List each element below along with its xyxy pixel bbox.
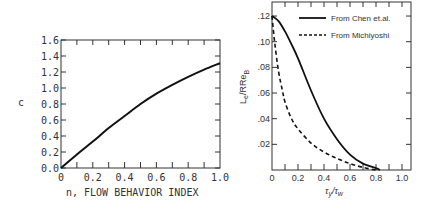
right-y-axis-title: Le/RReB xyxy=(238,70,250,104)
y-tick-label: 1.6 xyxy=(41,35,59,46)
y-tick-label: 1.2 xyxy=(41,67,59,78)
x-tick-label: 0.8 xyxy=(370,173,383,183)
ylabel-rre: /RRe xyxy=(238,75,248,96)
x-tick-label: 0.6 xyxy=(147,172,165,183)
c-curve xyxy=(61,63,220,168)
ylabel-sub-b: B xyxy=(243,70,250,75)
x-tick-label: 0 xyxy=(269,173,274,183)
y-tick-label: 0.8 xyxy=(41,99,59,110)
y-tick-label: .04 xyxy=(257,114,270,124)
legend-label-michiyoshi: From Michiyoshi xyxy=(331,31,389,40)
y-tick-label: 0.2 xyxy=(41,147,59,158)
y-tick-label: 0.4 xyxy=(41,131,59,142)
x-tick-label: 1.0 xyxy=(211,172,229,183)
x-tick-label: 0.8 xyxy=(179,172,197,183)
right-x-axis-title: τy/τw xyxy=(325,186,344,198)
legend-label-chen: From Chen et.al. xyxy=(331,14,391,23)
right-chart: .02.04.06.08.10.12 00.20.40.60.81.0 From… xyxy=(238,2,411,198)
y-tick-label: .12 xyxy=(257,11,270,21)
y-tick-label: .08 xyxy=(257,62,270,72)
left-x-axis-title: n, FLOW BEHAVIOR INDEX xyxy=(66,187,198,198)
left-chart: 0.00.20.40.60.81.01.21.41.6 00.20.40.60.… xyxy=(18,35,229,199)
y-tick-label: 1.4 xyxy=(41,51,59,62)
left-x-axis-ticks: 00.20.40.60.81.0 xyxy=(58,40,229,183)
left-y-axis-title: c xyxy=(18,97,24,108)
x-tick-label: 0.4 xyxy=(318,173,331,183)
right-x-axis-ticks: 00.20.40.60.81.0 xyxy=(269,2,408,183)
x-tick-label: 1.0 xyxy=(396,173,409,183)
y-tick-label: .02 xyxy=(257,139,270,149)
y-tick-label: .06 xyxy=(257,88,270,98)
x-tick-label: 0 xyxy=(58,172,64,183)
y-tick-label: .10 xyxy=(257,37,270,47)
legend: From Chen et.al. From Michiyoshi xyxy=(299,14,391,40)
x-tick-label: 0.4 xyxy=(116,172,134,183)
y-tick-label: 0.0 xyxy=(41,163,59,174)
y-tick-label: 0.6 xyxy=(41,115,59,126)
x-tick-label: 0.2 xyxy=(84,172,102,183)
x-tick-label: 0.2 xyxy=(292,173,305,183)
figure: 0.00.20.40.60.81.01.21.41.6 00.20.40.60.… xyxy=(0,0,430,214)
left-y-axis-ticks: 0.00.20.40.60.81.01.21.41.6 xyxy=(41,35,220,174)
x-tick-label: 0.6 xyxy=(344,173,357,183)
xlabel-sub-w: w xyxy=(338,190,344,197)
y-tick-label: 1.0 xyxy=(41,83,59,94)
